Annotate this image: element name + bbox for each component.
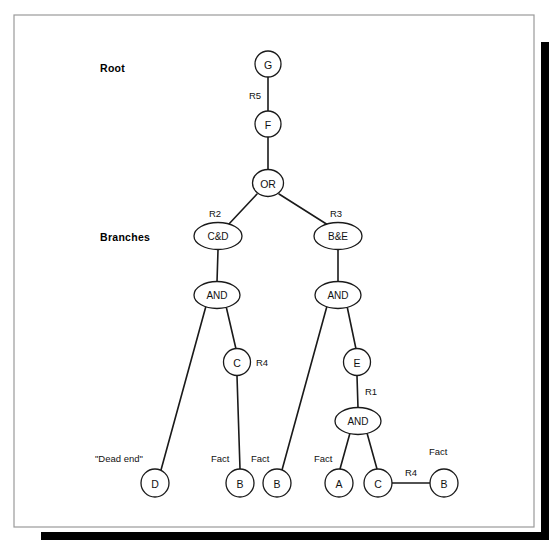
shadow-right xyxy=(541,42,549,540)
annotation-fact-br: Fact xyxy=(429,446,448,457)
node-label: B xyxy=(440,478,447,490)
rule-label-r4-bot: R4 xyxy=(405,467,417,478)
tree-node-and_l[interactable]: AND xyxy=(194,282,240,309)
rule-label-r1: R1 xyxy=(365,386,377,397)
diagram-page: GFORC&DB&EANDANDCEANDDBBACB R5R2R3R4R1R4… xyxy=(0,0,556,546)
tree-node-and_bot[interactable]: AND xyxy=(335,408,381,435)
tree-node-e[interactable]: E xyxy=(344,349,371,376)
annotation-fact-a: Fact xyxy=(314,453,333,464)
tree-node-b_l[interactable]: B xyxy=(226,469,254,497)
node-label: B&E xyxy=(328,231,348,242)
tree-node-b_m[interactable]: B xyxy=(263,469,291,497)
node-label: A xyxy=(335,478,342,490)
tree-edge-cd-andl xyxy=(217,250,218,282)
section-label-branches: Branches xyxy=(100,231,150,243)
tree-node-and_r[interactable]: AND xyxy=(315,282,361,309)
annotation-fact-bm: Fact xyxy=(251,453,270,464)
rule-label-r5: R5 xyxy=(249,90,261,101)
annotation-fact-bl: Fact xyxy=(211,453,230,464)
node-label: AND xyxy=(206,290,227,301)
node-label: C&D xyxy=(207,231,228,242)
node-label: E xyxy=(353,357,360,369)
node-label: C xyxy=(374,478,382,490)
node-label: F xyxy=(265,119,271,131)
tree-node-d[interactable]: D xyxy=(141,469,169,497)
tree-node-g[interactable]: G xyxy=(255,51,281,77)
node-label: C xyxy=(233,357,241,369)
rule-label-r2: R2 xyxy=(209,208,221,219)
tree-node-c_bot[interactable]: C xyxy=(364,469,392,497)
tree-node-or[interactable]: OR xyxy=(253,170,284,197)
node-label: B xyxy=(273,478,280,490)
section-label-root: Root xyxy=(100,62,125,74)
tree-node-c_mid[interactable]: C xyxy=(224,349,251,376)
node-label: D xyxy=(151,478,159,490)
tree-node-cd[interactable]: C&D xyxy=(194,223,242,250)
rule-label-r3: R3 xyxy=(330,208,342,219)
rule-label-r4-mid: R4 xyxy=(256,357,268,368)
tree-node-a[interactable]: A xyxy=(325,469,353,497)
inference-tree-diagram: GFORC&DB&EANDANDCEANDDBBACB R5R2R3R4R1R4… xyxy=(0,0,556,546)
frame-border xyxy=(14,15,534,527)
tree-edge-e-andbot xyxy=(357,376,358,408)
annotation-dead-end: "Dead end" xyxy=(95,453,143,464)
node-label: AND xyxy=(347,416,368,427)
shadow-bottom xyxy=(41,532,549,540)
tree-node-be[interactable]: B&E xyxy=(314,223,362,250)
node-label: G xyxy=(264,59,272,71)
node-label: AND xyxy=(327,290,348,301)
diagram-frame xyxy=(14,15,534,527)
tree-node-b_r[interactable]: B xyxy=(430,469,458,497)
tree-node-f[interactable]: F xyxy=(255,111,281,137)
node-label: B xyxy=(236,478,243,490)
node-label: OR xyxy=(260,178,276,190)
